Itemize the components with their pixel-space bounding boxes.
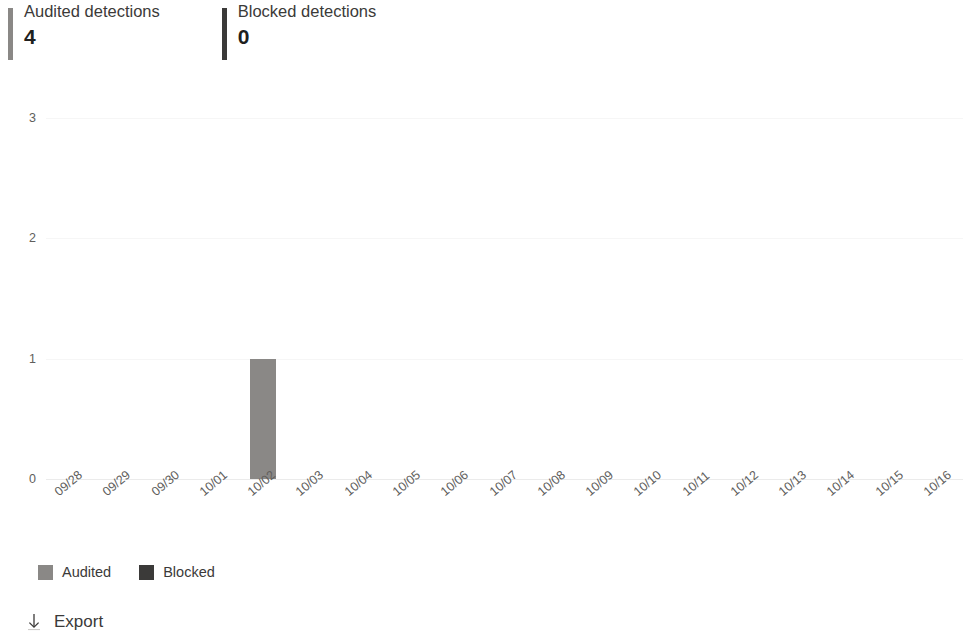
kpi-title-audited: Audited detections bbox=[24, 0, 160, 22]
kpi-accent-bar-blocked bbox=[222, 8, 227, 60]
kpi-value-blocked: 0 bbox=[238, 23, 377, 51]
legend-item-blocked[interactable]: Blocked bbox=[139, 564, 215, 580]
chart-gridline bbox=[46, 118, 963, 119]
chart-y-tick-label: 1 bbox=[0, 352, 36, 366]
kpi-card-audited-detections: Audited detections 4 bbox=[8, 0, 160, 60]
chart-y-tick-label: 2 bbox=[0, 231, 36, 245]
kpi-value-audited: 4 bbox=[24, 23, 160, 51]
legend-swatch-icon bbox=[38, 565, 53, 580]
legend-label: Audited bbox=[62, 564, 111, 580]
chart-gridline bbox=[46, 238, 963, 239]
export-label: Export bbox=[54, 612, 103, 632]
kpi-summary-row: Audited detections 4 Blocked detections … bbox=[0, 0, 376, 60]
kpi-title-blocked: Blocked detections bbox=[238, 0, 377, 22]
chart-bar[interactable] bbox=[250, 359, 276, 479]
download-arrow-icon bbox=[26, 613, 42, 631]
legend-label: Blocked bbox=[163, 564, 215, 580]
legend-item-audited[interactable]: Audited bbox=[38, 564, 111, 580]
legend-swatch-icon bbox=[139, 565, 154, 580]
export-button[interactable]: Export bbox=[26, 612, 103, 632]
chart-gridline bbox=[46, 359, 963, 360]
chart-x-axis-labels: 09/2809/2909/3010/0110/0210/0310/0410/05… bbox=[46, 488, 963, 548]
chart-plot-area: 0123 bbox=[46, 118, 963, 479]
kpi-accent-bar-audited bbox=[8, 8, 13, 60]
chart-legend: AuditedBlocked bbox=[38, 564, 243, 580]
kpi-card-blocked-detections: Blocked detections 0 bbox=[222, 0, 377, 60]
chart-y-tick-label: 0 bbox=[0, 472, 36, 486]
detections-bar-chart: 0123 bbox=[0, 95, 965, 495]
chart-y-tick-label: 3 bbox=[0, 111, 36, 125]
